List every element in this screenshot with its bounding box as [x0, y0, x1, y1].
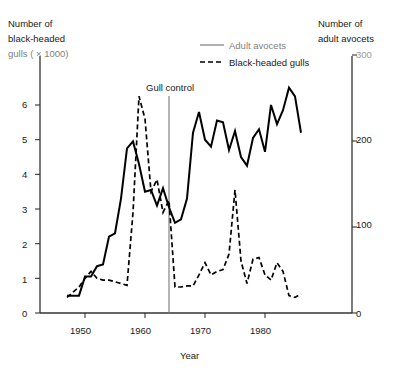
axes	[35, 55, 357, 318]
plot-area	[0, 0, 396, 371]
series-gulls	[67, 96, 301, 297]
chart-figure: Number of black-headed gulls ( × 1000) N…	[0, 0, 396, 371]
legend-swatches	[200, 45, 224, 62]
series-lines	[67, 88, 301, 298]
series-avocets	[67, 88, 301, 296]
